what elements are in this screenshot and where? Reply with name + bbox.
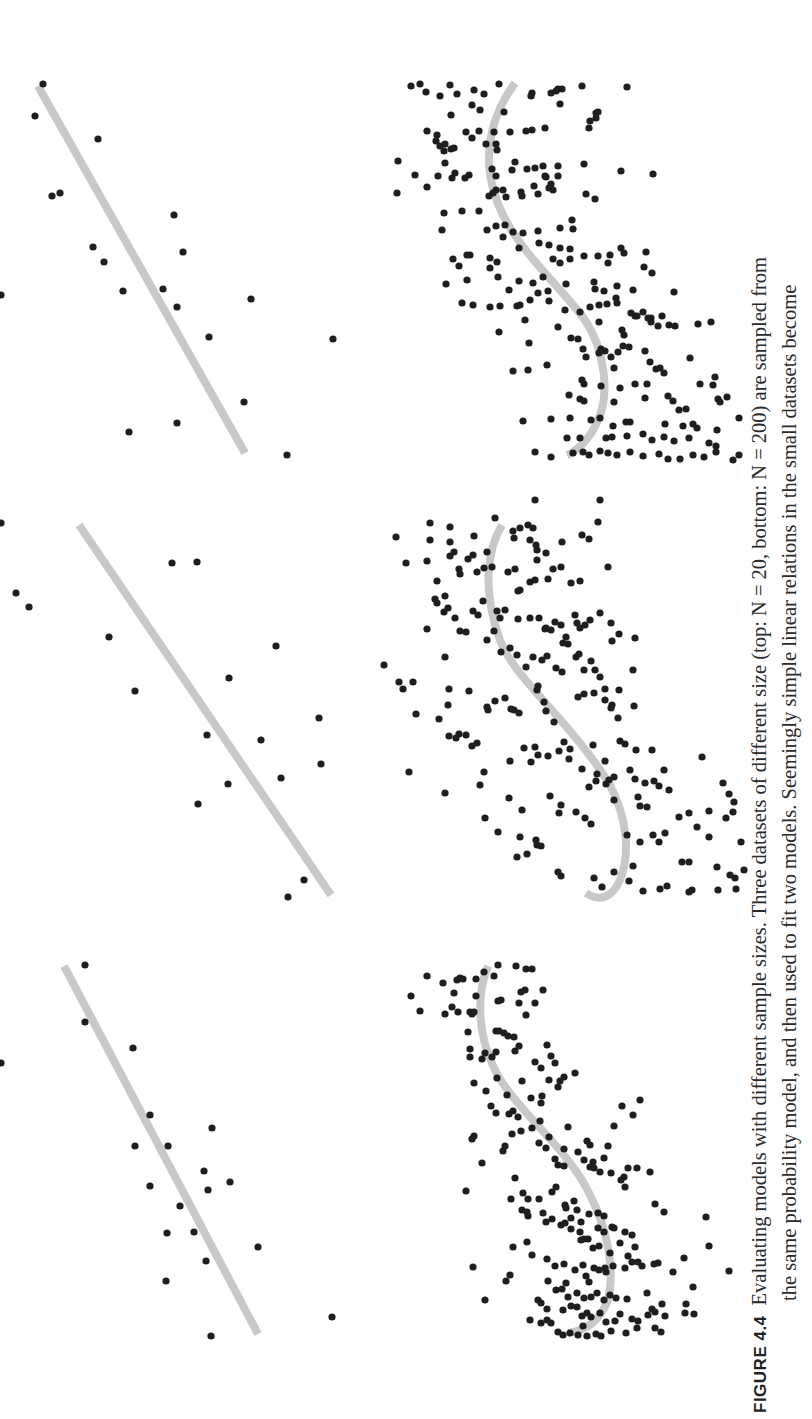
data-point	[649, 831, 656, 838]
data-point	[506, 128, 513, 135]
data-point	[483, 548, 490, 555]
data-point	[601, 757, 608, 764]
data-point	[560, 1162, 567, 1169]
data-point	[581, 814, 588, 821]
data-point	[679, 422, 686, 429]
data-point	[596, 414, 603, 421]
data-point	[543, 1041, 550, 1048]
data-point	[576, 577, 583, 584]
data-point	[506, 1271, 513, 1278]
data-point	[0, 1059, 5, 1066]
data-point	[240, 398, 247, 405]
data-point	[617, 1176, 624, 1183]
data-point	[519, 1189, 526, 1196]
data-point	[441, 653, 448, 660]
data-point	[639, 452, 646, 459]
data-point	[600, 1154, 607, 1161]
data-point	[629, 666, 636, 673]
data-point	[616, 1239, 623, 1246]
data-point	[484, 706, 491, 713]
data-point	[436, 92, 443, 99]
data-point	[670, 288, 677, 295]
data-point	[125, 428, 132, 435]
data-point	[464, 1028, 471, 1035]
data-point	[513, 651, 520, 658]
data-point	[470, 532, 477, 539]
data-point	[590, 689, 597, 696]
data-point	[578, 531, 585, 538]
data-point	[596, 447, 603, 454]
data-point	[643, 380, 650, 387]
data-point	[590, 874, 597, 881]
data-point	[402, 559, 409, 566]
data-point	[329, 335, 336, 342]
data-point	[610, 868, 617, 875]
data-point	[549, 255, 556, 262]
caption-line-2: the same probability model, and then use…	[775, 83, 803, 1413]
data-point	[146, 1182, 153, 1189]
data-point	[496, 302, 503, 309]
data-point	[528, 965, 535, 972]
data-point	[469, 1263, 476, 1270]
data-point	[423, 183, 430, 190]
data-point	[495, 328, 502, 335]
data-point	[735, 451, 742, 458]
data-point	[539, 1209, 546, 1216]
data-point	[462, 1187, 469, 1194]
data-point	[119, 287, 126, 294]
data-point	[193, 558, 200, 565]
data-point	[665, 321, 672, 328]
data-point	[441, 789, 448, 796]
data-point	[623, 831, 630, 838]
data-point	[604, 1142, 611, 1149]
data-point	[586, 303, 593, 310]
data-point	[711, 373, 718, 380]
data-point	[585, 535, 592, 542]
data-point	[564, 1123, 571, 1130]
data-point	[598, 883, 605, 890]
data-point	[441, 592, 448, 599]
data-point	[624, 1164, 631, 1171]
data-point	[539, 273, 546, 280]
data-point	[585, 1210, 592, 1217]
data-point	[613, 451, 620, 458]
data-point	[651, 1308, 658, 1315]
data-point	[518, 1077, 525, 1084]
data-point	[664, 455, 671, 462]
data-point	[458, 299, 465, 306]
data-point	[516, 524, 523, 531]
data-point	[538, 1092, 545, 1099]
data-point	[537, 842, 544, 849]
data-point	[497, 648, 504, 655]
data-point	[449, 255, 456, 262]
data-point	[519, 229, 526, 236]
data-point	[504, 568, 511, 575]
data-point	[608, 701, 615, 708]
data-point	[626, 766, 633, 773]
data-point	[596, 496, 603, 503]
data-point	[204, 1186, 211, 1193]
data-point	[544, 287, 551, 294]
data-point	[506, 757, 513, 764]
data-point	[519, 417, 526, 424]
data-point	[480, 968, 487, 975]
data-point	[705, 1242, 712, 1249]
data-point	[629, 1111, 636, 1118]
data-point	[590, 278, 597, 285]
data-point	[580, 160, 587, 167]
data-point	[515, 999, 522, 1006]
data-point	[725, 1267, 732, 1274]
data-point	[492, 1109, 499, 1116]
data-point	[587, 1293, 594, 1300]
data-point	[491, 514, 498, 521]
data-point	[634, 1317, 641, 1324]
data-point	[567, 1225, 574, 1232]
data-point	[468, 742, 475, 749]
data-point	[527, 1094, 534, 1101]
data-point	[578, 765, 585, 772]
data-point	[475, 207, 482, 214]
data-point	[542, 549, 549, 556]
data-point	[636, 838, 643, 845]
data-point	[131, 1142, 138, 1149]
data-point	[526, 614, 533, 621]
